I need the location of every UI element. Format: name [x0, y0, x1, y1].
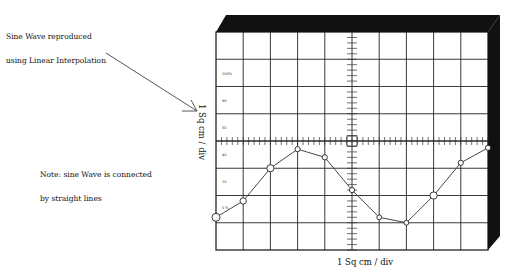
oscilloscope-diagram	[0, 0, 508, 277]
data-point-marker	[458, 160, 463, 165]
frame-top-bevel	[216, 15, 500, 32]
data-point-marker	[485, 145, 490, 150]
y-axis-label: 1 Sq cm / div	[197, 104, 207, 160]
data-point-marker	[212, 213, 220, 221]
data-point-marker	[322, 155, 327, 160]
left-tick-label: 50	[222, 126, 226, 130]
left-tick-label: 0 %	[222, 206, 229, 210]
left-tick-label: 10	[222, 180, 226, 184]
left-tick-label: 40	[222, 153, 226, 157]
data-point-marker	[240, 198, 246, 204]
data-point-marker	[377, 215, 382, 220]
left-tick-label: 90	[222, 99, 226, 103]
x-axis-label: 1 Sq cm / div	[337, 257, 393, 267]
frame-right-side	[488, 15, 500, 250]
data-point-marker	[349, 187, 354, 192]
data-point-marker	[430, 192, 437, 199]
pointer-arrow	[106, 53, 197, 111]
data-point-marker	[267, 165, 274, 172]
data-point-marker	[295, 147, 300, 152]
left-tick-label: 100%	[222, 72, 232, 76]
data-point-marker	[404, 220, 409, 225]
